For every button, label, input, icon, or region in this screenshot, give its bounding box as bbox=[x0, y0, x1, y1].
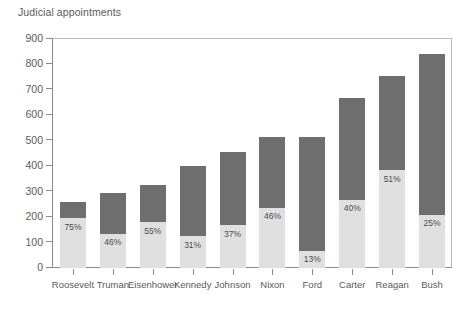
x-axis-label: Reagan bbox=[376, 279, 409, 290]
y-axis-tick-label: 500 bbox=[25, 134, 43, 146]
bar-upper-segment[interactable]: 55% bbox=[140, 185, 166, 268]
x-axis-label: Kennedy bbox=[174, 279, 212, 290]
y-axis-tick-label: 0 bbox=[37, 261, 43, 273]
x-axis-label: Truman bbox=[97, 279, 129, 290]
x-axis-tick-mark bbox=[153, 269, 154, 275]
bar-column[interactable]: 37% bbox=[220, 39, 246, 268]
y-axis-tick-mark bbox=[46, 216, 52, 217]
x-axis-tick-mark bbox=[272, 269, 273, 275]
x-axis-label: Eisenhower bbox=[128, 279, 178, 290]
y-axis-tick-mark bbox=[46, 241, 52, 242]
y-axis-tick-mark bbox=[46, 38, 52, 39]
x-axis-tick-mark bbox=[392, 269, 393, 275]
bar-upper-segment[interactable]: 37% bbox=[220, 152, 246, 268]
bar-percent-label: 51% bbox=[379, 175, 405, 184]
y-axis-tick-mark bbox=[46, 190, 52, 191]
y-axis-tick-label: 400 bbox=[25, 159, 43, 171]
y-axis-tick-mark bbox=[46, 88, 52, 89]
y-axis-tick-label: 800 bbox=[25, 57, 43, 69]
x-axis-tick-mark bbox=[193, 269, 194, 275]
x-axis-label: Nixon bbox=[260, 279, 284, 290]
bar-column[interactable]: 40% bbox=[339, 39, 365, 268]
bar-percent-label: 75% bbox=[60, 223, 86, 232]
bar-column[interactable]: 51% bbox=[379, 39, 405, 268]
x-axis-label: Carter bbox=[339, 279, 365, 290]
x-axis-tick-mark bbox=[352, 269, 353, 275]
y-axis-tick-mark bbox=[46, 63, 52, 64]
bar-column[interactable]: 46% bbox=[100, 39, 126, 268]
x-axis-tick-mark bbox=[233, 269, 234, 275]
bar-percent-label: 25% bbox=[419, 219, 445, 228]
x-axis-label: Bush bbox=[421, 279, 443, 290]
bar-upper-segment[interactable]: 51% bbox=[379, 76, 405, 268]
bar-column[interactable]: 75% bbox=[60, 39, 86, 268]
x-axis-label: Ford bbox=[303, 279, 323, 290]
chart-title: Judicial appointments bbox=[18, 6, 121, 18]
y-axis-tick-label: 900 bbox=[25, 32, 43, 44]
bar-upper-segment[interactable]: 13% bbox=[299, 137, 325, 268]
bar-upper-segment[interactable]: 46% bbox=[100, 193, 126, 268]
x-axis-label: Johnson bbox=[215, 279, 251, 290]
bars-group: 75%46%55%31%37%46%13%40%51%25% bbox=[53, 39, 452, 268]
x-axis-labels: RooseveltTrumanEisenhowerKennedyJohnsonN… bbox=[53, 279, 452, 299]
bar-lower-segment[interactable] bbox=[379, 170, 405, 268]
bar-upper-segment[interactable]: 31% bbox=[180, 166, 206, 268]
bar-percent-label: 55% bbox=[140, 227, 166, 236]
x-axis-ticks bbox=[53, 269, 452, 277]
bar-percent-label: 37% bbox=[220, 230, 246, 239]
bar-percent-label: 46% bbox=[259, 212, 285, 221]
x-axis-tick-mark bbox=[312, 269, 313, 275]
bar-column[interactable]: 31% bbox=[180, 39, 206, 268]
y-axis-tick-label: 300 bbox=[25, 185, 43, 197]
y-axis-tick-mark bbox=[46, 165, 52, 166]
y-axis-tick-mark bbox=[46, 114, 52, 115]
bar-column[interactable]: 55% bbox=[140, 39, 166, 268]
y-axis-tick-mark bbox=[46, 267, 52, 268]
x-axis-tick-mark bbox=[73, 269, 74, 275]
bar-upper-segment[interactable]: 75% bbox=[60, 202, 86, 268]
chart-root: Judicial appointments 010020030040050060… bbox=[0, 0, 461, 314]
y-axis-tick-label: 700 bbox=[25, 83, 43, 95]
bar-percent-label: 46% bbox=[100, 238, 126, 247]
y-axis-tick-label: 200 bbox=[25, 210, 43, 222]
y-axis-tick-mark bbox=[46, 139, 52, 140]
bar-percent-label: 40% bbox=[339, 204, 365, 213]
bar-percent-label: 13% bbox=[299, 255, 325, 264]
x-axis-label: Roosevelt bbox=[52, 279, 94, 290]
y-axis-tick-label: 100 bbox=[25, 236, 43, 248]
x-axis-tick-mark bbox=[432, 269, 433, 275]
bar-column[interactable]: 25% bbox=[419, 39, 445, 268]
bar-percent-label: 31% bbox=[180, 241, 206, 250]
bar-column[interactable]: 46% bbox=[259, 39, 285, 268]
bar-upper-segment[interactable]: 46% bbox=[259, 137, 285, 268]
bar-upper-segment[interactable]: 25% bbox=[419, 54, 445, 268]
bar-column[interactable]: 13% bbox=[299, 39, 325, 268]
bar-upper-segment[interactable]: 40% bbox=[339, 98, 365, 268]
y-axis-tick-label: 600 bbox=[25, 108, 43, 120]
x-axis-tick-mark bbox=[113, 269, 114, 275]
